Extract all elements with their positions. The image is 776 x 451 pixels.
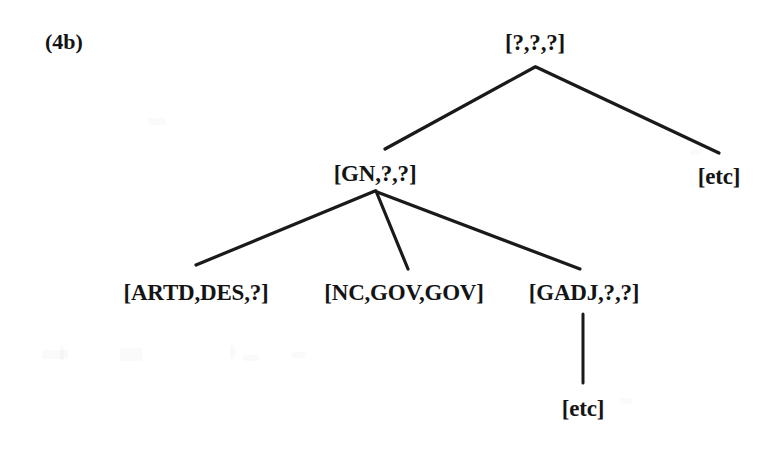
- edge-gn-to-artd: [196, 191, 375, 265]
- tree-node-etc-right: [etc]: [698, 165, 740, 188]
- scan-artifact: [120, 348, 142, 361]
- edge-root-to-etc-right: [536, 67, 719, 153]
- scan-artifact: [148, 118, 166, 125]
- edge-gn-to-nc: [376, 191, 408, 269]
- scan-artifact: [690, 150, 700, 155]
- edge-gn-to-gadj: [377, 192, 580, 269]
- scan-artifact: [60, 345, 64, 361]
- edge-root-to-gn: [385, 67, 535, 149]
- tree-edges: [0, 0, 776, 451]
- example-number-label: (4b): [45, 31, 83, 53]
- tree-node-gn: [GN,?,?]: [334, 162, 417, 185]
- figure-canvas: (4b) [?,?,?] [GN,?,?] [etc] [ARTD,DES,?]…: [0, 0, 776, 451]
- tree-node-gadj: [GADJ,?,?]: [529, 281, 639, 304]
- tree-node-artd: [ARTD,DES,?]: [123, 281, 268, 304]
- tree-node-root: [?,?,?]: [505, 31, 565, 54]
- scan-artifact: [230, 345, 235, 359]
- scan-artifact: [243, 355, 259, 361]
- edge-group: [196, 67, 719, 383]
- scan-artifact: [292, 352, 306, 358]
- scan-artifact: [620, 398, 632, 404]
- tree-node-nc: [NC,GOV,GOV]: [324, 281, 483, 304]
- tree-node-etc-below: [etc]: [562, 397, 604, 420]
- scan-artifact: [42, 350, 68, 359]
